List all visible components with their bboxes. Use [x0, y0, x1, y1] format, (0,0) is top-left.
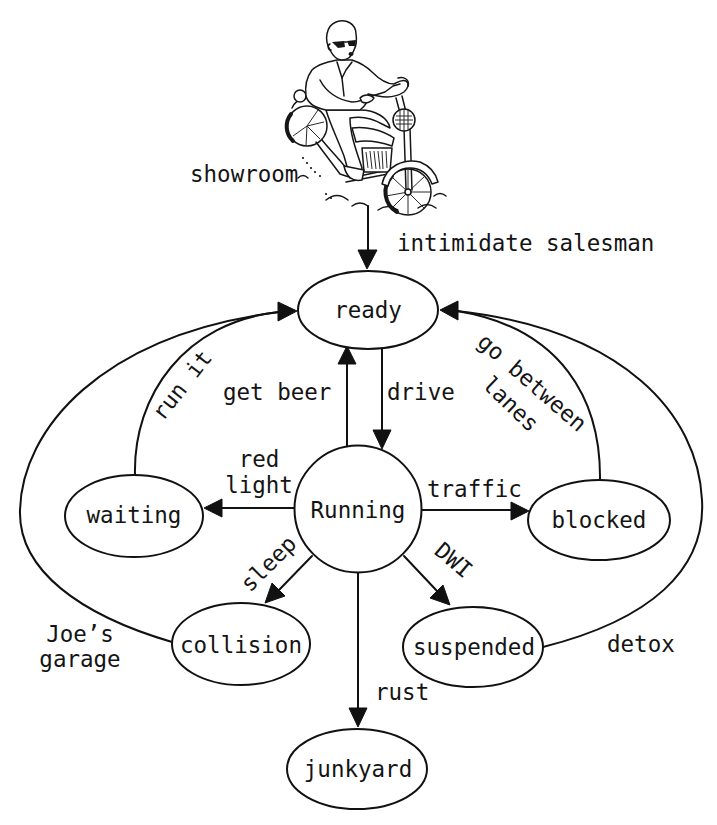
edge-label-get-beer: get beer: [223, 379, 331, 405]
edge-label-joes-garage-line2: garage: [39, 646, 120, 672]
start-label-showroom: showroom: [190, 161, 298, 187]
edge-label-detox: detox: [607, 631, 675, 657]
edge-label-joes-garage-line1: Joe’s: [46, 621, 114, 647]
node-ready: ready: [298, 271, 438, 349]
node-waiting: waiting: [65, 475, 203, 557]
node-label: Running: [311, 497, 406, 523]
node-label: collision: [180, 632, 302, 658]
node-label: suspended: [413, 634, 535, 660]
state-diagram: ready Running waiting blocked collision …: [0, 0, 717, 825]
node-collision: collision: [172, 603, 310, 685]
node-blocked: blocked: [528, 480, 670, 560]
node-junkyard: junkyard: [287, 729, 427, 809]
edge-label-drive: drive: [387, 379, 455, 405]
edge-label-intimidate-salesman: intimidate salesman: [397, 230, 654, 256]
node-suspended: suspended: [403, 607, 543, 687]
node-label: blocked: [552, 507, 647, 533]
node-label: waiting: [87, 502, 182, 528]
node-label: ready: [334, 297, 402, 323]
node-label: junkyard: [304, 756, 412, 782]
edge-label-red-light-line2: light: [225, 472, 293, 498]
edge-label-rust: rust: [375, 679, 429, 705]
node-running: Running: [295, 446, 422, 573]
edge-label-traffic: traffic: [427, 476, 522, 502]
edge-label-red-light-line1: red: [239, 446, 280, 472]
